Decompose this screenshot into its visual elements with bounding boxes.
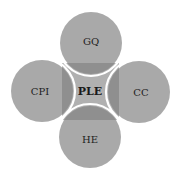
label-cc: CC [133, 87, 149, 98]
label-he: HE [82, 134, 98, 145]
label-gq: GQ [83, 36, 99, 47]
ple-diagram: GQ CPI CC HE PLE [0, 0, 181, 179]
label-cpi: CPI [31, 86, 49, 97]
label-ple: PLE [78, 85, 102, 98]
